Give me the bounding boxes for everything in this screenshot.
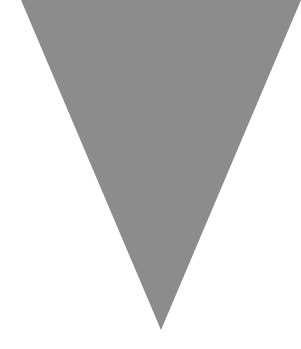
canvas [0, 0, 301, 349]
